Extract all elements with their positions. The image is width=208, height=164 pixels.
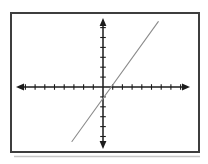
figure-canvas [0,0,208,164]
coordinate-plane-graph [0,0,208,164]
figure-frame [11,13,199,152]
